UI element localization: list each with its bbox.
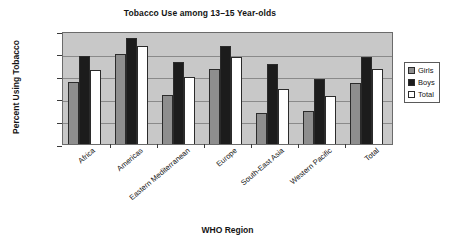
legend-label-girls: Girls [418, 66, 433, 75]
bar-groups [63, 33, 392, 144]
bar-group-bars [204, 33, 251, 144]
tobacco-use-bar-chart: Tobacco Use among 13–15 Year-olds Percen… [0, 0, 463, 247]
legend-label-boys: Boys [418, 78, 435, 87]
bar-girls-total [350, 83, 361, 144]
bar-group [345, 33, 392, 144]
bar-boys-americas [126, 38, 137, 144]
bar-group-bars [298, 33, 345, 144]
x-axis-title: WHO Region [62, 225, 393, 235]
bar-total-americas [137, 46, 148, 144]
bar-boys-south-east-asia [267, 64, 278, 144]
legend-swatch-total-icon [408, 91, 415, 98]
x-category-label: Total [363, 146, 381, 163]
x-axis-category-labels: AfricaAmericasEastern MediterraneanEurop… [62, 146, 393, 221]
bar-total-europe [231, 57, 242, 144]
bar-boys-eastern-mediterranean [173, 62, 184, 144]
bar-girls-europe [209, 69, 220, 144]
bar-group-bars [63, 33, 110, 144]
bar-group-bars [251, 33, 298, 144]
bar-group [298, 33, 345, 144]
bar-girls-eastern-mediterranean [162, 95, 173, 144]
x-category-label: Western Pacific [288, 146, 334, 186]
bar-girls-africa [68, 82, 79, 144]
x-category-label: Europe [215, 146, 239, 168]
bar-total-south-east-asia [278, 89, 289, 145]
x-category-label: Africa [77, 146, 97, 165]
bar-total-africa [90, 70, 101, 144]
bar-boys-europe [220, 46, 231, 144]
bar-group-bars [345, 33, 392, 144]
bar-group [204, 33, 251, 144]
bar-total-western-pacific [325, 96, 336, 144]
chart-title: Tobacco Use among 13–15 Year-olds [0, 8, 400, 18]
bar-boys-western-pacific [314, 79, 325, 144]
chart-legend: Girls Boys Total [404, 62, 440, 103]
legend-item-total: Total [408, 90, 435, 99]
plot-area [62, 32, 393, 145]
bar-boys-africa [79, 56, 90, 144]
bar-total-total [372, 69, 383, 144]
legend-item-boys: Boys [408, 78, 435, 87]
bar-girls-western-pacific [303, 111, 314, 144]
y-axis-title-text: Percent Using Tobacco [11, 40, 21, 134]
plot-inner [63, 33, 392, 144]
legend-swatch-boys-icon [408, 79, 415, 86]
bar-group [157, 33, 204, 144]
bar-group [63, 33, 110, 144]
x-category-label: South-East Asia [240, 146, 287, 187]
x-category-label: Americas [115, 146, 145, 173]
bar-girls-south-east-asia [256, 113, 267, 144]
y-axis-title: Percent Using Tobacco [8, 28, 24, 146]
bar-group [110, 33, 157, 144]
legend-label-total: Total [418, 90, 434, 99]
bar-group-bars [157, 33, 204, 144]
bar-total-eastern-mediterranean [184, 77, 195, 144]
bar-group [251, 33, 298, 144]
bar-group-bars [110, 33, 157, 144]
bar-girls-americas [115, 54, 126, 144]
legend-swatch-girls-icon [408, 67, 415, 74]
legend-item-girls: Girls [408, 66, 435, 75]
bar-boys-total [361, 57, 372, 144]
